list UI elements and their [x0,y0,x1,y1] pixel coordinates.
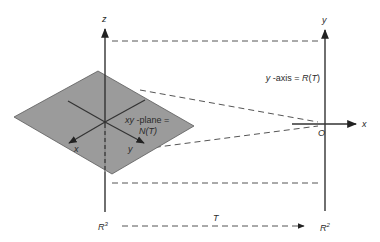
range-annotation: y -axis = R(T) [265,73,320,83]
x-axis-label: x [73,144,79,154]
z-axis-label: z [101,14,107,24]
plane-label-line1: xy -plane = [124,115,169,125]
domain-space-label: R3 [98,221,109,232]
r2-x-axis-label: x [361,119,367,129]
codomain-space-label: R2 [320,222,331,233]
plane-label-line2: N(T) [139,126,157,136]
origin-label: O [318,128,325,138]
y-axis-label-3d: y [127,144,133,154]
linear-map-diagram: z x y xy -plane = N(T) y x O y -axis = R… [0,0,380,242]
mapping-label: T [213,213,220,223]
r2-y-axis-label: y [321,15,327,25]
